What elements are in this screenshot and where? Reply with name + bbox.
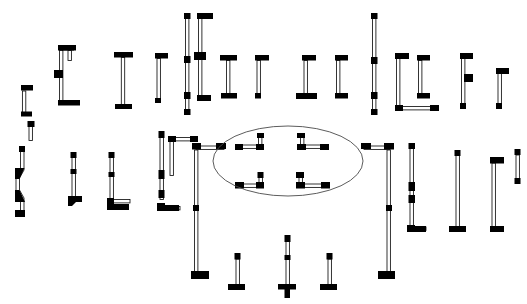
canvas-background: [0, 0, 527, 304]
diagram-canvas: [0, 0, 527, 304]
wall-segment-plan: [0, 0, 527, 304]
